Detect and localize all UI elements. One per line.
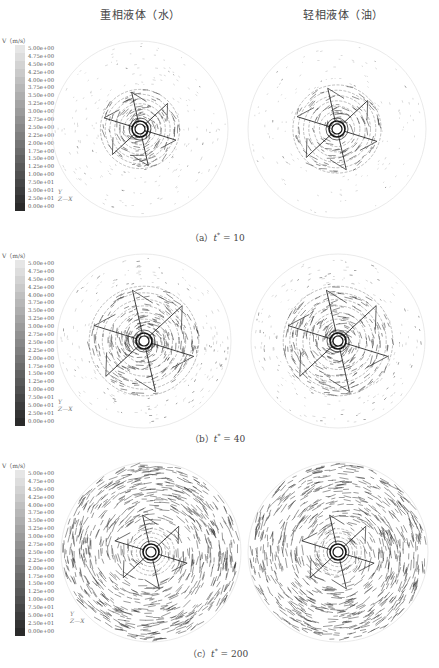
- legend-label: 5.00e+00: [28, 470, 54, 478]
- legend-label: 2.00e+00: [28, 565, 54, 573]
- legend-swatch: [15, 61, 25, 69]
- legend-swatch: [15, 292, 25, 300]
- legend-label: 3.75e+00: [28, 509, 54, 517]
- legend-swatch: [15, 612, 25, 620]
- legend-swatch: [15, 140, 25, 148]
- legend-swatch: [15, 402, 25, 410]
- legend-label: 5.00e+00: [28, 260, 54, 268]
- caption-c: （c）t* = 200: [188, 647, 248, 660]
- legend-swatch: [15, 549, 25, 557]
- legend-swatch: [15, 84, 25, 92]
- column-title-heavy-phase: 重相液体（水）: [100, 6, 181, 22]
- legend-swatch: [15, 339, 25, 347]
- legend-label: 3.00e+00: [28, 533, 54, 541]
- legend-swatch: [15, 410, 25, 418]
- legend-swatch: [15, 580, 25, 588]
- legend-label: 4.75e+00: [28, 268, 54, 276]
- legend-label: 2.75e+00: [28, 331, 54, 339]
- legend-swatch: [15, 171, 25, 179]
- legend-label: 2.50e+00: [28, 549, 54, 557]
- legend-label: 3.75e+00: [28, 299, 54, 307]
- legend-swatch: [15, 620, 25, 628]
- legend-swatch: [15, 418, 25, 426]
- legend-swatch: [15, 370, 25, 378]
- legend-swatch: [15, 284, 25, 292]
- legend-labels: 5.00e+004.75e+004.50e+004.25e+004.00e+00…: [28, 470, 54, 636]
- legend-label: 3.00e+00: [28, 323, 54, 331]
- legend-swatch: [15, 486, 25, 494]
- legend-swatch: [15, 163, 25, 171]
- legend-swatch: [15, 307, 25, 315]
- legend-label: 4.25e+00: [28, 494, 54, 502]
- legend-swatch: [15, 116, 25, 124]
- legend-label: 1.25e+00: [28, 378, 54, 386]
- velocity-plot-a-light: [246, 38, 428, 220]
- legend-swatch: [15, 386, 25, 394]
- caption-b: （b）t* = 40: [190, 432, 245, 445]
- legend-swatch: [15, 565, 25, 573]
- velocity-plot-c-heavy: [58, 460, 244, 644]
- legend-label: 2.50e+00: [28, 339, 54, 347]
- legend-label: 4.25e+00: [28, 284, 54, 292]
- caption-a: （a）t* = 10: [190, 231, 245, 244]
- legend-color-bar: [15, 470, 25, 636]
- legend-swatch: [15, 541, 25, 549]
- velocity-plot-b-heavy: [54, 252, 234, 430]
- velocity-legend-b: V（m/s） 5.00e+004.75e+004.50e+004.25e+004…: [2, 251, 62, 426]
- legend-swatch: [15, 573, 25, 581]
- legend-swatch: [15, 517, 25, 525]
- legend-label: 1.75e+00: [28, 573, 54, 581]
- legend-label: 4.00e+00: [28, 292, 54, 300]
- velocity-plot-a-heavy: [50, 38, 230, 220]
- legend-labels: 5.00e+004.75e+004.50e+004.25e+004.00e+00…: [28, 260, 54, 426]
- legend-swatch: [15, 604, 25, 612]
- legend-title: V（m/s）: [2, 251, 62, 260]
- legend-body: 5.00e+004.75e+004.50e+004.25e+004.00e+00…: [2, 470, 62, 636]
- legend-swatch: [15, 355, 25, 363]
- legend-swatch: [15, 132, 25, 140]
- legend-label: 4.50e+00: [28, 486, 54, 494]
- legend-label: 4.50e+00: [28, 276, 54, 284]
- legend-label: 3.50e+00: [28, 307, 54, 315]
- legend-label: 2.75e+00: [28, 541, 54, 549]
- legend-swatch: [15, 588, 25, 596]
- legend-swatch: [15, 276, 25, 284]
- legend-label: 4.00e+00: [28, 502, 54, 510]
- legend-label: 7.50e+01: [28, 604, 54, 612]
- legend-swatch: [15, 260, 25, 268]
- legend-color-bar: [15, 260, 25, 426]
- legend-swatch: [15, 100, 25, 108]
- legend-swatch: [15, 470, 25, 478]
- legend-label: 1.75e+00: [28, 363, 54, 371]
- legend-swatch: [15, 179, 25, 187]
- legend-label: 1.25e+00: [28, 588, 54, 596]
- legend-label: 7.50e+01: [28, 394, 54, 402]
- legend-swatch: [15, 628, 25, 636]
- legend-swatch: [15, 45, 25, 53]
- legend-swatch: [15, 478, 25, 486]
- legend-label: 3.25e+00: [28, 525, 54, 533]
- legend-label: 3.25e+00: [28, 315, 54, 323]
- legend-swatch: [15, 195, 25, 203]
- legend-label: 2.25e+00: [28, 557, 54, 565]
- legend-swatch: [15, 347, 25, 355]
- legend-swatch: [15, 331, 25, 339]
- legend-label: 0.00e+00: [28, 628, 54, 636]
- velocity-plot-b-light: [248, 252, 428, 430]
- legend-swatch: [15, 525, 25, 533]
- legend-label: 1.00e+00: [28, 386, 54, 394]
- legend-label: 2.50e+01: [28, 410, 54, 418]
- legend-swatch: [15, 378, 25, 386]
- legend-label: 2.50e+01: [28, 620, 54, 628]
- legend-swatch: [15, 509, 25, 517]
- legend-swatch: [15, 394, 25, 402]
- legend-swatch: [15, 494, 25, 502]
- legend-swatch: [15, 187, 25, 195]
- legend-label: 2.25e+00: [28, 347, 54, 355]
- legend-swatch: [15, 203, 25, 211]
- column-title-light-phase: 轻相液体（油）: [303, 6, 384, 22]
- legend-swatch: [15, 53, 25, 61]
- velocity-plot-c-light: [246, 460, 430, 644]
- legend-swatch: [15, 557, 25, 565]
- legend-label: 0.00e+00: [28, 418, 54, 426]
